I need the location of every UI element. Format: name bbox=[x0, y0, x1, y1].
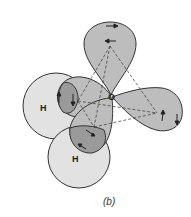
hydrogen-bottom-label: H bbox=[72, 154, 79, 164]
oxygen-label: O bbox=[108, 92, 115, 102]
water-orbital-diagram: O H H (b) bbox=[0, 0, 191, 217]
lone-pair-lobe-right bbox=[112, 88, 182, 131]
overlap-left bbox=[58, 82, 78, 113]
hydrogen-left-label: H bbox=[40, 103, 47, 113]
figure-caption: (b) bbox=[103, 196, 115, 207]
